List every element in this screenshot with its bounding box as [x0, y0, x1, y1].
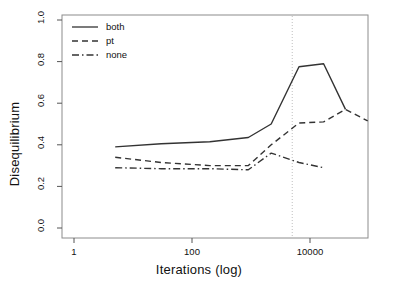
x-tick-label: 10000 [290, 246, 330, 257]
y-tick-label: 1.0 [28, 12, 54, 23]
x-axis-ticks [74, 238, 310, 243]
y-axis-title-wrap: Disequilibrium [0, 0, 29, 287]
x-axis-title: Iterations (log) [0, 262, 398, 277]
legend-item-pt: pt [106, 35, 114, 46]
x-tick-label: 1 [54, 246, 94, 257]
chart-figure: Disequilibrium Iterations (log) 0.00.20.… [0, 0, 398, 287]
x-tick-label: 100 [172, 246, 212, 257]
y-tick-label: 0.0 [28, 220, 54, 231]
y-axis-title: Disequilibrium [7, 101, 22, 185]
y-tick-label: 0.2 [28, 178, 54, 189]
y-tick-label: 0.4 [28, 137, 54, 148]
y-tick-label: 0.6 [28, 95, 54, 106]
y-axis-ticks [57, 20, 62, 228]
legend-sample-lines [72, 27, 98, 55]
y-tick-label: 0.8 [28, 54, 54, 65]
legend-item-none: none [106, 49, 127, 60]
plot-canvas [0, 0, 398, 287]
series-layer [115, 64, 368, 170]
legend-item-both: both [106, 21, 125, 32]
